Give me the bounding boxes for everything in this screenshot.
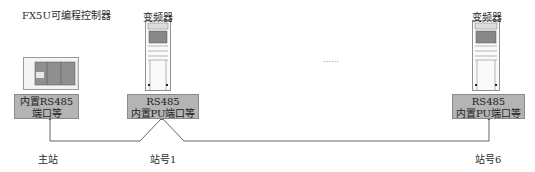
plc-port-line2: 端口等 [15, 108, 78, 120]
inverter-6-port-line2: 内置PU端口等 [453, 108, 524, 120]
inverter-6-port-line1: RS485 [453, 96, 524, 108]
inverter-6-title: 变频器 [472, 9, 502, 24]
inverter-6-station-label: 站号6 [475, 151, 501, 166]
more-stations-ellipsis: …… [323, 55, 339, 64]
inverter-6-port-box: RS485 内置PU端口等 [452, 94, 525, 119]
inverter-1-title: 变频器 [143, 9, 173, 24]
plc-port-line1: 内置RS485 [15, 96, 78, 108]
plc-station-label: 主站 [38, 151, 58, 166]
inverter-1-station-label: 站号1 [150, 151, 176, 166]
inverter-1-port-box: RS485 内置PU端口等 [127, 94, 199, 119]
plc-device-icon [24, 58, 79, 90]
inverter-1-port-line1: RS485 [128, 96, 198, 108]
inverter-1-device-icon [146, 21, 171, 91]
inverter-1-port-line2: 内置PU端口等 [128, 108, 198, 120]
inverter-6-device-icon [473, 21, 500, 91]
rs485-bus-line [50, 118, 489, 141]
plc-port-box: 内置RS485 端口等 [14, 94, 79, 119]
diagram-drawing [0, 0, 535, 172]
